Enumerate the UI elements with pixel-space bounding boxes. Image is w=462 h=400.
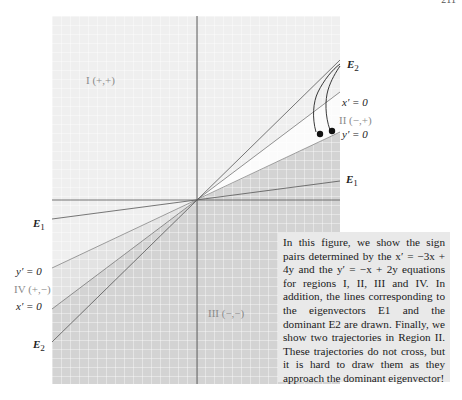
xprime-zero-right-label: x′ = 0 [342, 97, 368, 108]
E1-right-label: E1 [346, 174, 358, 188]
figure-caption: In this figure, we show the sign pairs d… [278, 232, 450, 382]
region-IV-label: IV (+,−) [14, 284, 51, 295]
E1-left-label: E1 [33, 218, 45, 232]
region-I-label: I (+,+) [86, 75, 115, 86]
region-II-label: II (−,+) [339, 115, 372, 126]
yprime-zero-right-label: y′ = 0 [342, 129, 368, 140]
trajectory-2-start [329, 128, 335, 134]
E2-left-label: E2 [33, 339, 45, 353]
E2-top-label: E2 [347, 59, 359, 73]
yprime-zero-left-label: y′ = 0 [16, 266, 42, 277]
xprime-zero-left-label: x′ = 0 [16, 301, 42, 312]
region-III-label: III (−,−) [208, 308, 244, 319]
trajectory-1-start [317, 131, 323, 137]
